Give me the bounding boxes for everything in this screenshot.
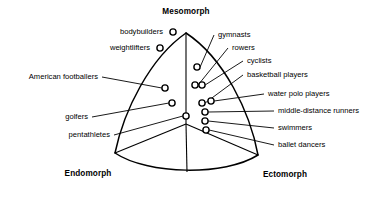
data-point-cyclists[interactable] (199, 82, 205, 88)
data-point-gymnasts[interactable] (194, 64, 200, 70)
data-label-gymnasts: gymnasts (218, 30, 251, 39)
leader-line-cyclists (205, 61, 243, 85)
data-point-swimmers[interactable] (202, 118, 208, 124)
axis-to-ectomorph (186, 124, 258, 155)
leader-line-ballet-dancers (209, 130, 274, 145)
data-point-pentathletes[interactable] (183, 113, 189, 119)
data-label-rowers: rowers (232, 43, 255, 52)
leader-line-swimmers (208, 121, 274, 128)
leader-line-american-footballers (102, 77, 162, 88)
vertex-label-mesomorph: Mesomorph (162, 7, 209, 16)
data-label-middle-distance-runners: middle-distance runners (278, 106, 359, 115)
leader-line-middle-distance-runners (208, 111, 274, 112)
data-point-water-polo-players[interactable] (208, 98, 214, 104)
data-label-golfers: golfers (65, 112, 88, 121)
data-label-pentathletes: pentathletes (69, 130, 111, 139)
data-label-weightlifters: weightlifters (109, 43, 150, 52)
axis-to-bottom-arc (186, 124, 187, 172)
data-point-bodybuilders[interactable] (170, 29, 176, 35)
data-point-american-footballers[interactable] (162, 85, 168, 91)
data-label-bodybuilders: bodybuilders (120, 27, 163, 36)
somatochart-figure: Mesomorph Endomorph Ectomorph bodybuilde… (0, 0, 390, 201)
somatochart-canvas: Mesomorph Endomorph Ectomorph bodybuilde… (0, 0, 390, 201)
chart-internal-axes (115, 33, 258, 172)
data-point-rowers[interactable] (192, 82, 198, 88)
leader-line-gymnasts (200, 35, 214, 67)
data-point-basketball-players[interactable] (199, 100, 205, 106)
data-point-middle-distance-runners[interactable] (202, 109, 208, 115)
vertex-label-ectomorph: Ectomorph (263, 170, 307, 179)
data-label-ballet-dancers: ballet dancers (278, 140, 325, 149)
data-label-water-polo-players: water polo players (267, 89, 330, 98)
data-point-golfers[interactable] (169, 100, 175, 106)
vertex-label-endomorph: Endomorph (65, 169, 112, 178)
data-label-cyclists: cyclists (247, 56, 272, 65)
data-label-american-footballers: American footballers (29, 72, 98, 81)
data-point-ballet-dancers[interactable] (203, 127, 209, 133)
data-label-basketball-players: basketball players (247, 70, 308, 79)
axis-to-endomorph (115, 124, 186, 153)
data-point-weightlifters[interactable] (157, 45, 163, 51)
data-label-swimmers: swimmers (278, 123, 312, 132)
